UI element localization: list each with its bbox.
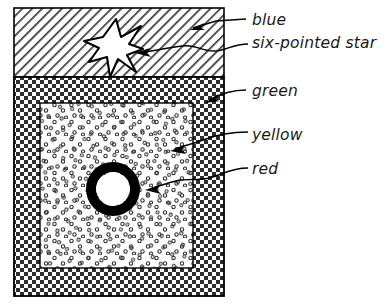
diagram-svg: blue six-pointed star green yellow red <box>0 0 384 308</box>
diagram-canvas: blue six-pointed star green yellow red <box>0 0 384 308</box>
region-red-center <box>97 173 130 206</box>
label-green: green <box>252 82 298 100</box>
label-blue: blue <box>252 11 286 29</box>
region-red[interactable] <box>91 167 135 211</box>
label-yellow: yellow <box>251 126 303 144</box>
label-six-pointed-star: six-pointed star <box>252 34 378 52</box>
label-red: red <box>252 160 278 178</box>
